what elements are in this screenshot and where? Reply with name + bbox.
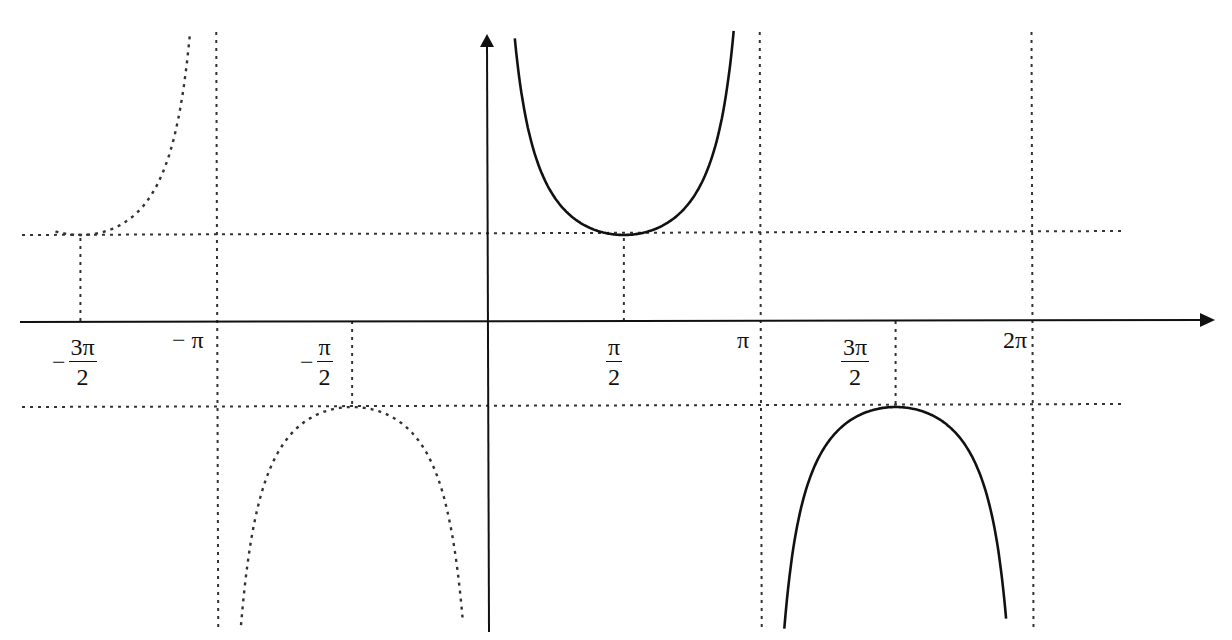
csc-branch-solid-3	[784, 407, 1006, 629]
tick-label-neg-pi: − π	[172, 328, 204, 352]
tick-label-neg-pi-over-2: −π2	[300, 335, 333, 389]
asymptote-line	[760, 32, 762, 632]
numerator: π	[606, 335, 622, 362]
asymptote-line	[216, 32, 218, 632]
tick-label-neg-3pi-over-2: −3π2	[52, 335, 97, 389]
csc-branch-dotted-1	[241, 407, 463, 625]
tick-label-pi: π	[737, 328, 749, 352]
tick-label-2pi: 2π	[1003, 328, 1027, 352]
y-axis	[487, 44, 489, 632]
minus-sign: −	[300, 350, 314, 374]
csc-branch-dotted-0	[56, 31, 191, 235]
numerator: 3π	[841, 335, 869, 362]
asymptote-line	[1031, 32, 1033, 632]
denominator: 2	[319, 362, 331, 389]
guide-line-y-1	[22, 231, 1125, 235]
minus-sign: −	[52, 350, 66, 374]
y-axis-arrow-icon	[480, 34, 494, 47]
x-axis-arrow-icon	[1200, 313, 1215, 327]
tick-label-3pi-over-2: 3π2	[841, 335, 869, 389]
numerator: π	[317, 335, 333, 362]
guide-line-y-minus-1	[22, 404, 1125, 407]
x-axis	[20, 320, 1205, 322]
csc-branch-solid-2	[515, 31, 734, 235]
numerator: 3π	[69, 335, 97, 362]
denominator: 2	[849, 362, 861, 389]
tick-label-pi-over-2: π2	[606, 335, 622, 389]
denominator: 2	[77, 362, 89, 389]
denominator: 2	[608, 362, 620, 389]
csc-graph	[0, 0, 1232, 640]
